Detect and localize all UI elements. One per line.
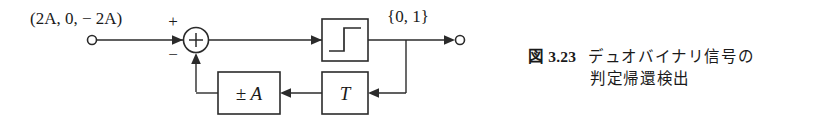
arrowhead-feedback-to-sum	[191, 53, 201, 64]
gain-block-label: ± A	[236, 83, 263, 104]
delay-block-label: T	[340, 83, 352, 104]
figure-caption: 図 3.23 デュオバイナリ信号の 判定帰還検出	[528, 46, 828, 90]
output-signal-label: {0, 1}	[387, 7, 429, 26]
threshold-block	[322, 19, 368, 61]
block-diagram: (2A, 0, − 2A) + − {0, 1} T	[0, 0, 520, 123]
figure-container: (2A, 0, − 2A) + − {0, 1} T	[0, 0, 832, 123]
figure-caption-line-2: 判定帰還検出	[588, 68, 754, 90]
input-terminal-node	[88, 36, 97, 45]
arrowhead-sum-to-threshold	[311, 35, 322, 45]
arrowhead-input-to-sum	[172, 35, 183, 45]
figure-caption-text: デュオバイナリ信号の 判定帰還検出	[588, 46, 754, 90]
arrowhead-tap-to-delay	[368, 88, 379, 98]
arrowhead-delay-to-gain	[280, 88, 291, 98]
figure-caption-line-1: デュオバイナリ信号の	[588, 46, 754, 68]
figure-caption-label: 図 3.23	[528, 46, 576, 68]
sum-minus-sign: −	[168, 45, 178, 64]
input-signal-label: (2A, 0, − 2A)	[30, 9, 122, 28]
output-terminal-node	[456, 36, 465, 45]
arrowhead-to-output	[444, 35, 455, 45]
sum-plus-sign: +	[168, 12, 178, 31]
